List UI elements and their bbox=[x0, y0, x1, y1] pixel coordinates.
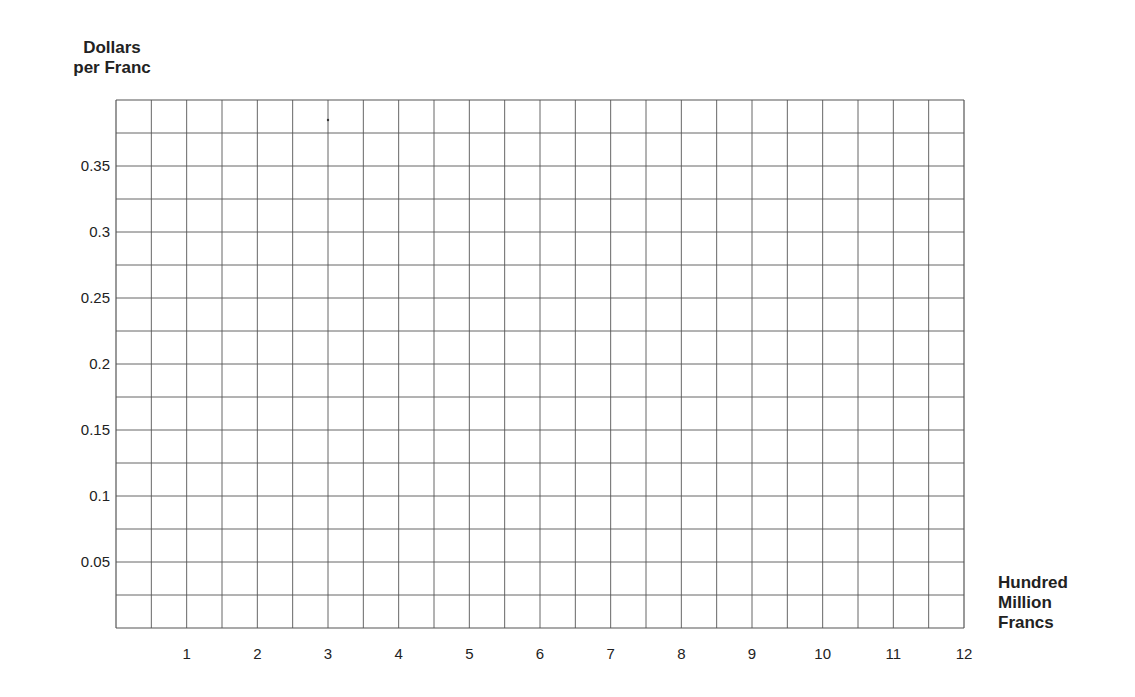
chart-plot-area: 123456789101112 0.050.10.150.20.250.30.3… bbox=[0, 0, 1135, 697]
x-tick-label: 3 bbox=[324, 645, 332, 662]
grid bbox=[116, 100, 964, 628]
stray-mark bbox=[327, 119, 329, 121]
x-tick-label: 4 bbox=[394, 645, 402, 662]
y-axis-ticks: 0.050.10.150.20.250.30.35 bbox=[81, 157, 110, 570]
x-tick-label: 8 bbox=[677, 645, 685, 662]
x-tick-label: 5 bbox=[465, 645, 473, 662]
x-tick-label: 9 bbox=[748, 645, 756, 662]
y-tick-label: 0.2 bbox=[89, 355, 110, 372]
x-tick-label: 11 bbox=[886, 645, 902, 662]
y-tick-label: 0.15 bbox=[81, 421, 110, 438]
x-axis-ticks: 123456789101112 bbox=[182, 645, 972, 662]
y-tick-label: 0.1 bbox=[89, 487, 110, 504]
y-tick-label: 0.25 bbox=[81, 289, 110, 306]
x-tick-label: 2 bbox=[253, 645, 261, 662]
x-tick-label: 12 bbox=[956, 645, 973, 662]
y-tick-label: 0.35 bbox=[81, 157, 110, 174]
y-tick-label: 0.3 bbox=[89, 223, 110, 240]
x-tick-label: 7 bbox=[606, 645, 614, 662]
x-tick-label: 6 bbox=[536, 645, 544, 662]
x-tick-label: 10 bbox=[814, 645, 831, 662]
x-tick-label: 1 bbox=[182, 645, 190, 662]
y-tick-label: 0.05 bbox=[81, 553, 110, 570]
